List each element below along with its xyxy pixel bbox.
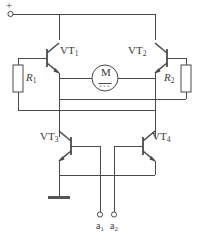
vt3-collector-slant <box>59 131 71 141</box>
input-leads-group <box>100 146 114 212</box>
input-terminal-a1-label: a1 <box>96 221 104 231</box>
vt1-collector-slant <box>47 43 59 53</box>
resistor-r2-label: R2 <box>164 72 174 83</box>
r1-label-text: R <box>26 71 33 83</box>
transistor-vt2-label: VT2 <box>128 45 146 56</box>
transistor-vt1-label: VT1 <box>60 45 78 56</box>
vt1-label-sub: 1 <box>75 49 79 58</box>
a2-terminal-node[interactable] <box>111 212 116 217</box>
transistor-vt4[interactable] <box>114 131 156 175</box>
vt2-label-sub: 2 <box>143 49 147 58</box>
a1-terminal-node[interactable] <box>97 212 102 217</box>
vt4-label-text: VT <box>152 130 167 142</box>
vt2-collector-slant <box>155 43 167 53</box>
r2-label-sub: 2 <box>171 76 175 85</box>
r1-label-sub: 1 <box>33 76 37 85</box>
r1-body <box>13 65 23 92</box>
vt1-label-text: VT <box>60 44 75 56</box>
resistor-r1-label: R1 <box>26 72 36 83</box>
motor-label: M <box>101 67 111 78</box>
schematic-svg <box>0 0 197 237</box>
transistor-vt3[interactable] <box>59 131 101 186</box>
circuit-diagram-canvas: + VT1 VT2 VT3 VT4 R1 R2 M a1 a2 <box>0 0 197 237</box>
vt3-label-sub: 3 <box>55 135 59 144</box>
transistor-vt1[interactable] <box>18 43 60 137</box>
supply-polarity-label: + <box>6 0 12 11</box>
vt3-label-text: VT <box>40 130 55 142</box>
transistor-vt4-label: VT4 <box>152 131 170 142</box>
ground-rail-group <box>59 175 155 197</box>
r2-body <box>181 65 191 92</box>
transistor-vt3-label: VT3 <box>40 131 58 142</box>
positive-terminal-node[interactable] <box>8 11 13 16</box>
supply-rail-group <box>13 14 155 40</box>
a2-label-sub: 2 <box>114 225 118 233</box>
input-terminal-a2-label: a2 <box>110 221 118 231</box>
vt2-label-text: VT <box>128 44 143 56</box>
r2-label-text: R <box>164 71 171 83</box>
vt4-label-sub: 4 <box>167 135 171 144</box>
a1-label-sub: 1 <box>100 225 104 233</box>
